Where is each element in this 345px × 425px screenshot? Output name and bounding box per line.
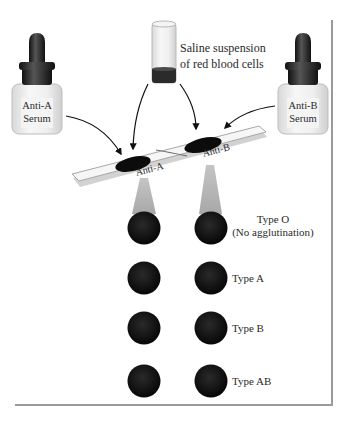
anti-a-label-line2: Serum: [15, 112, 59, 125]
vial-label-line1: Saline suspension: [180, 40, 266, 56]
result-dots: [128, 212, 228, 398]
result-label-type-a: Type A: [232, 272, 264, 285]
anti-b-bottle-label: Anti-B Serum: [281, 99, 325, 125]
result-type-o-sublabel: (No agglutination): [230, 226, 316, 239]
anti-b-label-line2: Serum: [281, 112, 325, 125]
result-label-type-b: Type B: [232, 322, 264, 335]
result-label-type-o: Type O (No agglutination): [230, 213, 316, 239]
vial-label-line2: of red blood cells: [180, 56, 266, 72]
red-blood-cell-vial-icon: [152, 21, 176, 83]
anti-a-label-line1: Anti-A: [15, 99, 59, 112]
vial-label: Saline suspension of red blood cells: [180, 40, 266, 72]
glass-slide: [72, 126, 267, 187]
anti-b-label-line1: Anti-B: [281, 99, 325, 112]
result-label-type-ab: Type AB: [232, 375, 271, 388]
flow-arrows: [66, 84, 275, 154]
result-type-o-label: Type O: [230, 213, 316, 226]
anti-a-bottle-label: Anti-A Serum: [15, 99, 59, 125]
blood-typing-diagram: Anti-A Serum Anti-B Serum Saline suspens…: [0, 0, 345, 425]
